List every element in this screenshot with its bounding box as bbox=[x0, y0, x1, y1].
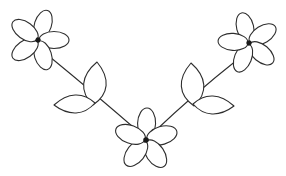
leaves-group bbox=[54, 62, 234, 114]
floral-illustration bbox=[0, 0, 286, 176]
upper-left-flower bbox=[0, 1, 78, 79]
artboard: Floral Vine Line Drawing Symmetric V-sha… bbox=[0, 0, 286, 176]
upper-right-flower bbox=[210, 5, 286, 80]
